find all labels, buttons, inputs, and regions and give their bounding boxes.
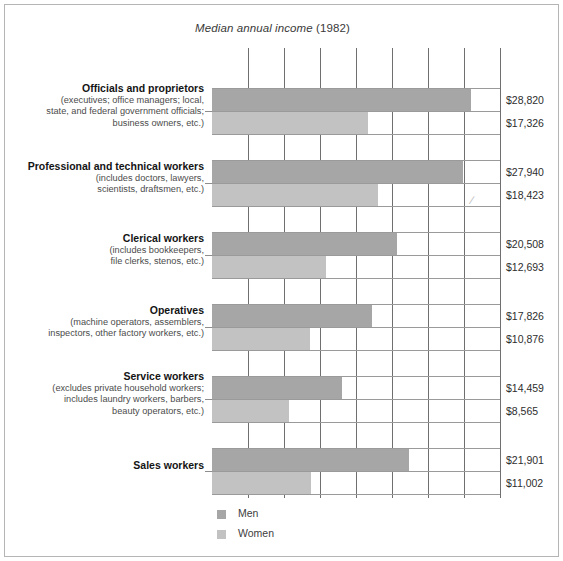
category-title: Professional and technical workers: [8, 160, 204, 173]
gridline-horizontal: [212, 134, 500, 135]
category-label-1: Officials and proprietors(executives; of…: [8, 82, 204, 130]
category-label-6: Sales workers: [8, 459, 204, 472]
value-label-women: $17,326: [506, 117, 560, 129]
category-subtitle-line: includes laundry workers, barbers,: [8, 394, 204, 406]
category-title: Sales workers: [8, 459, 204, 472]
gridline-horizontal: [212, 278, 500, 279]
chart-title: Median annual income (1982): [0, 22, 545, 34]
category-title: Service workers: [8, 370, 204, 383]
bar-women: [212, 256, 326, 278]
chart-title-main: Median annual income: [195, 22, 313, 34]
category-tick: [205, 327, 212, 328]
value-label-men: $21,901: [506, 454, 560, 466]
category-tick: [205, 255, 212, 256]
chart-page: Median annual income (1982) Officials an…: [0, 0, 563, 561]
value-label-women: $10,876: [506, 333, 560, 345]
bar-men: [212, 305, 372, 327]
category-subtitle-line: (executives; office managers; local,: [8, 95, 204, 107]
value-label-men: $14,459: [506, 382, 560, 394]
bar-women: [212, 472, 311, 494]
gridline-horizontal: [212, 350, 500, 351]
bar-men: [212, 89, 471, 111]
gridline-vertical: [428, 48, 429, 498]
value-label-women: $12,693: [506, 261, 560, 273]
category-title: Operatives: [8, 304, 204, 317]
bar-women: [212, 184, 378, 206]
category-subtitle-line: (machine operators, assemblers,: [8, 317, 204, 329]
value-label-women: $18,423: [506, 189, 560, 201]
category-tick: [205, 183, 212, 184]
category-subtitle-line: (excludes private household workers;: [8, 383, 204, 395]
bar-men: [212, 161, 463, 183]
category-subtitle-line: beauty operators, etc.): [8, 406, 204, 418]
category-tick: [205, 399, 212, 400]
category-subtitle-line: scientists, draftsmen, etc.): [8, 184, 204, 196]
chart-title-year: (1982): [316, 22, 350, 34]
category-title: Clerical workers: [8, 232, 204, 245]
category-label-3: Clerical workers(includes bookkeepers,fi…: [8, 232, 204, 268]
value-label-men: $28,820: [506, 94, 560, 106]
bar-men: [212, 449, 409, 471]
category-label-5: Service workers(excludes private househo…: [8, 370, 204, 418]
category-subtitle-line: file clerks, stenos, etc.): [8, 256, 204, 268]
frame-border-bottom: [4, 556, 559, 557]
bar-men: [212, 377, 342, 399]
frame-border-left: [4, 4, 5, 557]
frame-border-right: [558, 4, 559, 557]
chart-legend: MenWomen: [212, 505, 412, 545]
legend-label-men: Men: [238, 507, 258, 519]
category-title: Officials and proprietors: [8, 82, 204, 95]
value-label-women: $11,002: [506, 477, 560, 489]
category-label-4: Operatives(machine operators, assemblers…: [8, 304, 204, 340]
plot-area: [212, 48, 500, 498]
legend-item-women: Women: [212, 525, 412, 545]
gridline-vertical: [500, 48, 501, 498]
bar-women: [212, 400, 289, 422]
category-subtitle-line: inspectors, other factory workers, etc.): [8, 328, 204, 340]
category-label-2: Professional and technical workers(inclu…: [8, 160, 204, 196]
value-label-men: $20,508: [506, 238, 560, 250]
category-tick: [205, 111, 212, 112]
bar-men: [212, 233, 397, 255]
category-subtitle-line: state, and federal government officials;: [8, 106, 204, 118]
frame-border-top: [4, 4, 559, 5]
bar-women: [212, 112, 368, 134]
value-label-women: $8,565: [506, 405, 560, 417]
gridline-horizontal: [212, 494, 500, 495]
legend-swatch-men: [217, 510, 226, 519]
legend-swatch-women: [217, 530, 226, 539]
category-subtitle-line: (includes bookkeepers,: [8, 245, 204, 257]
bar-women: [212, 328, 310, 350]
category-subtitle-line: (includes doctors, lawyers,: [8, 173, 204, 185]
category-subtitle-line: business owners, etc.): [8, 118, 204, 130]
legend-label-women: Women: [238, 527, 274, 539]
value-label-men: $27,940: [506, 166, 560, 178]
gridline-vertical: [392, 48, 393, 498]
legend-item-men: Men: [212, 505, 412, 525]
category-tick: [205, 471, 212, 472]
value-label-men: $17,826: [506, 310, 560, 322]
gridline-horizontal: [212, 206, 500, 207]
gridline-vertical: [464, 48, 465, 498]
gridline-horizontal: [212, 422, 500, 423]
